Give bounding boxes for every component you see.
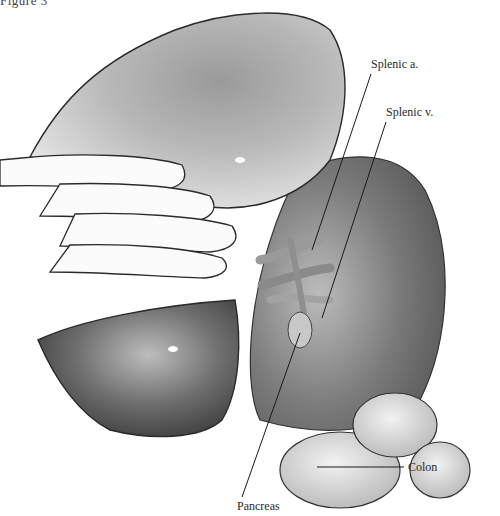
label-pancreas: Pancreas — [237, 499, 280, 514]
spleen-lower — [38, 300, 239, 437]
pancreas-tail — [288, 312, 312, 348]
label-splenic-artery: Splenic a. — [371, 57, 418, 72]
label-colon: Colon — [408, 460, 437, 475]
label-splenic-vein: Splenic v. — [386, 105, 433, 120]
surgical-illustration — [0, 0, 500, 516]
